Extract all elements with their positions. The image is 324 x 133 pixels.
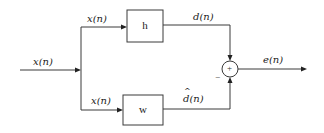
- plus-sign: +: [227, 64, 232, 73]
- h-output-line: [163, 25, 230, 58]
- w-input-signal-label: x(n): [91, 96, 111, 106]
- input-arrowhead-icon: [75, 68, 81, 73]
- minus-sign: −: [215, 73, 220, 82]
- h-input-signal-label: x(n): [87, 14, 107, 24]
- h-output-signal-label: d(n): [193, 12, 214, 22]
- d-hat-suffix: (n): [189, 93, 203, 104]
- block-h-label: h: [127, 20, 163, 31]
- input-signal-label: x(n): [33, 57, 53, 67]
- w-output-signal-label: d(n): [183, 94, 204, 104]
- d-hat-base: d: [183, 94, 189, 104]
- minus-input-arrowhead-icon: [228, 77, 233, 83]
- output-arrowhead-icon: [301, 67, 307, 72]
- error-output-signal-label: e(n): [263, 55, 283, 65]
- plus-input-arrowhead-icon: [228, 55, 233, 61]
- block-w-label: w: [123, 104, 163, 115]
